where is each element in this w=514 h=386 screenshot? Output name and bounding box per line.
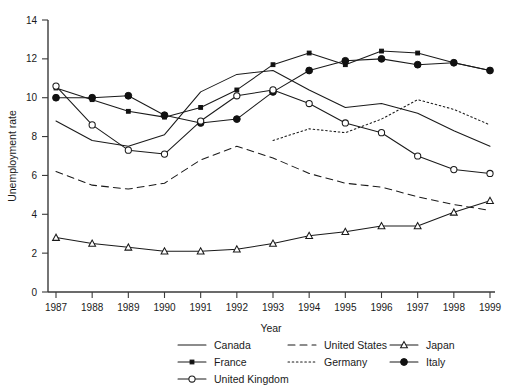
legend-item-label: Italy [426, 356, 446, 368]
series-line [56, 86, 490, 173]
series-united-states [56, 146, 490, 210]
data-point-marker [306, 67, 313, 74]
y-tick-label: 0 [31, 287, 37, 298]
series-france [54, 49, 492, 119]
data-point-marker [342, 120, 348, 126]
data-point-marker [378, 130, 384, 136]
data-point-marker [126, 109, 130, 113]
legend-item-united-kingdom[interactable]: United Kingdom [178, 373, 289, 385]
y-tick-label: 8 [31, 131, 37, 142]
x-tick-label: 1991 [190, 302, 213, 313]
x-tick-label: 1992 [226, 302, 249, 313]
legend-item-label: United States [324, 339, 387, 351]
data-point-marker [53, 94, 60, 101]
legend-swatch-marker [190, 360, 194, 364]
data-point-marker [53, 83, 59, 89]
y-tick-label: 14 [26, 15, 38, 26]
legend-item-germany[interactable]: Germany [288, 356, 368, 368]
chart-canvas: 02468101214 1987198819891990199119921993… [0, 0, 514, 386]
legend-item-label: Canada [214, 339, 251, 351]
legend-item-japan[interactable]: Japan [390, 339, 455, 351]
chart-legend: CanadaUnited StatesJapanFranceGermanyIta… [178, 339, 455, 385]
legend-item-label: United Kingdom [214, 373, 289, 385]
series-line [56, 71, 490, 147]
x-axis-ticks: 1987198819891990199119921993199419951996… [45, 292, 502, 313]
data-point-marker [380, 49, 384, 53]
legend-item-label: Germany [324, 356, 368, 368]
legend-swatch-marker [401, 359, 408, 366]
legend-item-canada[interactable]: Canada [178, 339, 251, 351]
x-tick-label: 1996 [370, 302, 393, 313]
y-axis-title: Unemployment rate [6, 110, 18, 202]
series-canada [56, 71, 490, 147]
legend-item-italy[interactable]: Italy [390, 356, 446, 368]
data-point-marker [89, 122, 95, 128]
x-tick-label: 1989 [117, 302, 140, 313]
data-point-marker [125, 92, 132, 99]
y-tick-label: 12 [26, 53, 38, 64]
data-series-group [53, 49, 494, 254]
x-tick-label: 1988 [81, 302, 104, 313]
series-japan [53, 197, 494, 254]
series-line [56, 51, 490, 117]
x-tick-label: 1994 [298, 302, 321, 313]
data-point-marker [487, 170, 493, 176]
x-tick-label: 1998 [443, 302, 466, 313]
data-point-marker [487, 197, 494, 203]
x-tick-label: 1997 [407, 302, 430, 313]
data-point-marker [89, 94, 96, 101]
data-point-marker [199, 106, 203, 110]
data-point-marker [414, 61, 421, 68]
series-line [56, 146, 490, 210]
legend-item-france[interactable]: France [178, 356, 247, 368]
x-tick-label: 1995 [334, 302, 357, 313]
axes [48, 20, 495, 292]
x-axis-title: Year [260, 322, 282, 334]
data-point-marker [270, 87, 276, 93]
x-tick-label: 1993 [262, 302, 285, 313]
x-tick-label: 1990 [153, 302, 176, 313]
data-point-marker [161, 112, 168, 119]
data-point-marker [234, 93, 240, 99]
x-tick-label: 1987 [45, 302, 68, 313]
legend-item-united-states[interactable]: United States [288, 339, 387, 351]
data-point-marker [451, 167, 457, 173]
data-point-marker [53, 234, 60, 240]
data-point-marker [198, 118, 204, 124]
data-point-marker [378, 55, 385, 62]
data-point-marker [125, 147, 131, 153]
y-tick-label: 10 [26, 92, 38, 103]
legend-swatch-marker [189, 376, 195, 382]
data-point-marker [161, 151, 167, 157]
data-point-marker [271, 63, 275, 67]
series-united-kingdom [53, 83, 493, 177]
data-point-marker [415, 153, 421, 159]
data-point-marker [416, 51, 420, 55]
data-point-marker [233, 116, 240, 123]
legend-item-label: Japan [426, 339, 455, 351]
data-point-marker [342, 57, 349, 64]
data-point-marker [235, 88, 239, 92]
unemployment-rate-line-chart: 02468101214 1987198819891990199119921993… [0, 0, 514, 386]
y-axis-ticks: 02468101214 [26, 15, 48, 298]
y-tick-label: 6 [31, 170, 37, 181]
data-point-marker [487, 67, 494, 74]
x-tick-label: 1999 [479, 302, 502, 313]
data-point-marker [450, 59, 457, 66]
data-point-marker [306, 100, 312, 106]
data-point-marker [307, 51, 311, 55]
y-tick-label: 2 [31, 248, 37, 259]
legend-item-label: France [214, 356, 247, 368]
y-tick-label: 4 [31, 209, 37, 220]
